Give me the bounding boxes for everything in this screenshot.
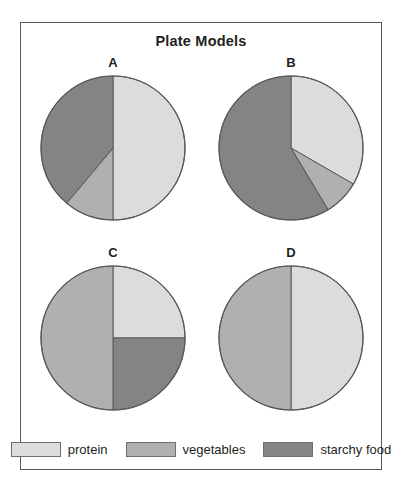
legend-label-protein: protein <box>68 442 108 457</box>
pie-slice-protein <box>291 266 363 410</box>
legend: protein vegetables starchy food <box>21 442 381 457</box>
pie-chart-b: B <box>207 55 375 241</box>
pie-svg-a <box>38 73 188 223</box>
pie-slice-vegetables <box>219 266 291 410</box>
legend-swatch-starchy-food <box>263 442 313 457</box>
legend-item-starchy-food: starchy food <box>263 442 391 457</box>
pie-label-c: C <box>29 245 197 260</box>
pie-label-d: D <box>207 245 375 260</box>
page-title: Plate Models <box>21 33 381 49</box>
pie-chart-d: D <box>207 245 375 431</box>
pie-slice-vegetables <box>41 266 113 410</box>
legend-label-starchy-food: starchy food <box>320 442 391 457</box>
pie-label-b: B <box>207 55 375 70</box>
pie-label-a: A <box>29 55 197 70</box>
pie-slice-protein <box>113 266 185 338</box>
pie-svg-c <box>38 263 188 413</box>
figure-frame: Plate Models A B C D protein vegetables … <box>20 22 382 470</box>
pie-svg-d <box>216 263 366 413</box>
legend-swatch-vegetables <box>126 442 176 457</box>
legend-item-vegetables: vegetables <box>126 442 246 457</box>
legend-item-protein: protein <box>11 442 108 457</box>
legend-swatch-protein <box>11 442 61 457</box>
pie-chart-a: A <box>29 55 197 241</box>
pie-svg-b <box>216 73 366 223</box>
legend-label-vegetables: vegetables <box>183 442 246 457</box>
pie-chart-c: C <box>29 245 197 431</box>
pie-slice-starchy-food <box>113 338 185 410</box>
pie-slice-protein <box>113 76 185 220</box>
